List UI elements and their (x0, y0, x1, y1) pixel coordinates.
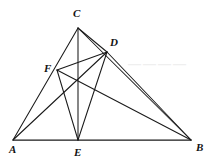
figure-background (0, 0, 213, 162)
vertex-label-f: F (43, 62, 52, 74)
vertex-label-e: E (73, 146, 81, 158)
watermark-text: ———— (128, 56, 188, 71)
geometry-figure-canvas: ———— ABCDEF (0, 0, 213, 162)
vertex-label-a: A (8, 143, 16, 155)
vertex-label-d: D (109, 36, 118, 48)
vertex-label-b: B (195, 141, 203, 153)
vertex-label-c: C (73, 7, 81, 19)
